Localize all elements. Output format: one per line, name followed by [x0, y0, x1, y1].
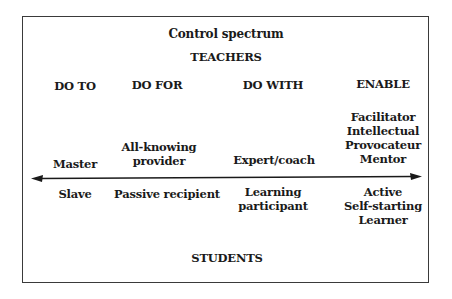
student-role-line: Self-starting — [344, 199, 422, 213]
student-role-line: Learning — [238, 185, 308, 199]
student-role-line: Active — [344, 185, 422, 199]
student-role-do-to: Slave — [58, 187, 91, 201]
student-role-do-for: Passive recipient — [114, 187, 220, 201]
student-role-line: participant — [238, 199, 308, 213]
students-label: STUDENTS — [191, 251, 262, 265]
student-role-line: Passive recipient — [114, 187, 220, 201]
student-role-enable: Active Self-starting Learner — [344, 185, 422, 227]
student-role-line: Learner — [344, 213, 422, 227]
student-role-line: Slave — [58, 187, 91, 201]
student-role-do-with: Learning participant — [238, 185, 308, 213]
